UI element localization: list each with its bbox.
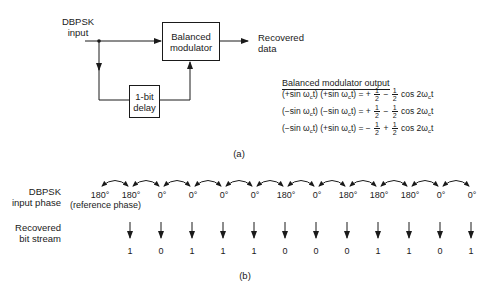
bit-value: 1 [182,246,202,256]
balanced-modulator-block: Balanced modulator [162,22,220,61]
output-label: Recovered data [258,32,304,54]
block-diagram-wiring [0,0,486,288]
bits-row-label: Recovered bit stream [0,222,61,244]
phase-value: 0° [147,190,177,200]
phase-transition-arcs [102,181,469,187]
phase-value: 180° [395,190,425,200]
equation-2: (−sin ωct) (−sin ωct) = + 12 − 12 cos 2ω… [282,104,433,119]
phase-value: 0° [178,190,208,200]
equation-1: (+sin ωct) (+sin ωct) = + 12 − 12 cos 2ω… [282,87,433,102]
phase-label-line2: input phase [0,197,61,208]
reference-phase-note: (reference phase) [70,200,141,211]
one-bit-delay-block: 1-bit delay [129,85,160,118]
phase-row-label: DBPSK input phase [0,186,61,208]
bit-value: 0 [151,246,171,256]
caption-b: (b) [230,270,260,281]
bit-value: 1 [461,246,481,256]
phase-value: 0° [457,190,486,200]
bit-value: 1 [120,246,140,256]
phase-value: 180° [85,190,115,200]
input-label-line1: DBPSK [58,16,98,27]
phase-value: 0° [240,190,270,200]
output-label-line1: Recovered [258,32,304,43]
bits-label-line1: Recovered [0,222,61,233]
bit-arrows [130,222,471,238]
input-label-line2: input [58,27,98,38]
phase-value: 180° [333,190,363,200]
modulator-label-line1: Balanced [170,31,212,42]
input-label: DBPSK input [58,16,98,38]
modulator-label-line2: modulator [170,42,212,53]
delay-label-line1: 1-bit [133,91,156,102]
phase-value: 180° [271,190,301,200]
bit-value: 0 [306,246,326,256]
phase-value: 0° [426,190,456,200]
bit-value: 1 [399,246,419,256]
bit-value: 0 [430,246,450,256]
equation-3: (−sin ωct) (+sin ωct) = − 12 + 12 cos 2ω… [282,121,433,136]
bit-value: 0 [337,246,357,256]
phase-value: 180° [116,190,146,200]
bit-value: 1 [368,246,388,256]
phase-value: 0° [209,190,239,200]
output-label-line2: data [258,43,304,54]
delay-label-line2: delay [133,102,156,113]
phase-value: 0° [302,190,332,200]
bit-value: 1 [213,246,233,256]
bit-value: 0 [275,246,295,256]
phase-label-line1: DBPSK [0,186,61,197]
phase-value: 180° [364,190,394,200]
bit-value: 1 [244,246,264,256]
caption-a: (a) [224,148,254,159]
bits-label-line2: bit stream [0,233,61,244]
